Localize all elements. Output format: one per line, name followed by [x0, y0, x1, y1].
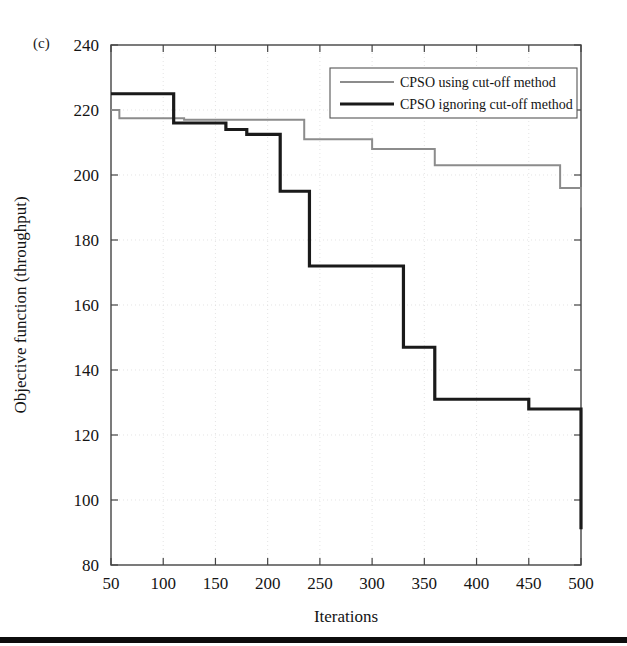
x-tick-label: 50 — [103, 574, 120, 593]
x-tick-label: 100 — [150, 574, 176, 593]
legend-label-ignoring-cutoff: CPSO ignoring cut-off method — [400, 97, 573, 112]
legend-label-using-cutoff: CPSO using cut-off method — [400, 75, 556, 90]
x-tick-label: 200 — [255, 574, 281, 593]
y-tick-label: 240 — [74, 36, 100, 55]
x-tick-label: 500 — [568, 574, 594, 593]
x-tick-label: 300 — [359, 574, 385, 593]
x-axis-title: Iterations — [314, 607, 378, 626]
y-tick-label: 180 — [74, 231, 100, 250]
x-tick-label: 250 — [307, 574, 333, 593]
y-axis-title: Objective function (throughput) — [11, 196, 30, 413]
figure-panel-c: (c) 80100120140160180200220240 501001502… — [0, 0, 627, 646]
y-tick-label: 100 — [74, 491, 100, 510]
y-tick-label: 120 — [74, 426, 100, 445]
x-tick-label: 350 — [412, 574, 438, 593]
panel-label: (c) — [33, 35, 50, 52]
x-tick-label: 450 — [516, 574, 542, 593]
page-bottom-rule — [0, 637, 627, 643]
x-tick-label: 150 — [203, 574, 229, 593]
y-tick-label: 220 — [74, 101, 100, 120]
y-tick-label: 160 — [74, 296, 100, 315]
x-tick-label: 400 — [464, 574, 490, 593]
y-tick-label: 80 — [82, 556, 99, 575]
y-tick-label: 200 — [74, 166, 100, 185]
chart-legend: CPSO using cut-off method CPSO ignoring … — [330, 68, 577, 118]
y-tick-label: 140 — [74, 361, 100, 380]
